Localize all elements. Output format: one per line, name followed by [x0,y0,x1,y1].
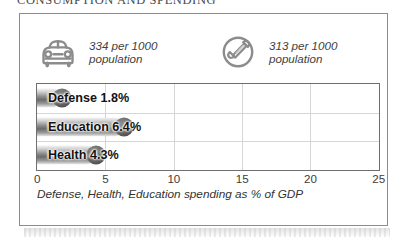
page-texture [24,228,390,237]
bar-row: Defense 1.8% [37,84,379,113]
car-icon [36,32,80,72]
x-tick-label: 15 [236,172,249,185]
chart-plot-area: Defense 1.8%Education 6.4%Health 4.3% [36,83,380,171]
bar-label-defense: Defense 1.8% [48,91,129,105]
infographic-card: 334 per 1000 population [19,13,388,226]
x-tick-label: 25 [372,172,385,185]
bar-row: Health 4.3% [37,141,379,170]
stat-telephones-value: 313 per 1000 population [269,39,337,66]
telephone-icon [216,32,260,72]
x-tick-label: 0 [34,172,40,185]
stat-vehicles-value: 334 per 1000 population [89,39,157,66]
x-tick-label: 5 [102,172,108,185]
bar-label-health: Health 4.3% [48,148,119,162]
stat-vehicles: 334 per 1000 population [36,24,208,80]
bar-row: Education 6.4% [37,113,379,142]
spending-bar-chart: Defense 1.8%Education 6.4%Health 4.3% 05… [36,83,380,209]
stat-telephones: 313 per 1000 population [216,24,337,80]
section-heading: CONSUMPTION AND SPENDING [17,0,377,9]
chart-x-axis: 0510152025 [36,171,380,188]
x-tick-label: 10 [167,172,180,185]
chart-caption: Defense, Health, Education spending as %… [37,187,303,201]
bar-label-education: Education 6.4% [48,120,141,134]
stats-strip: 334 per 1000 population [20,24,387,80]
x-tick-label: 20 [304,172,317,185]
